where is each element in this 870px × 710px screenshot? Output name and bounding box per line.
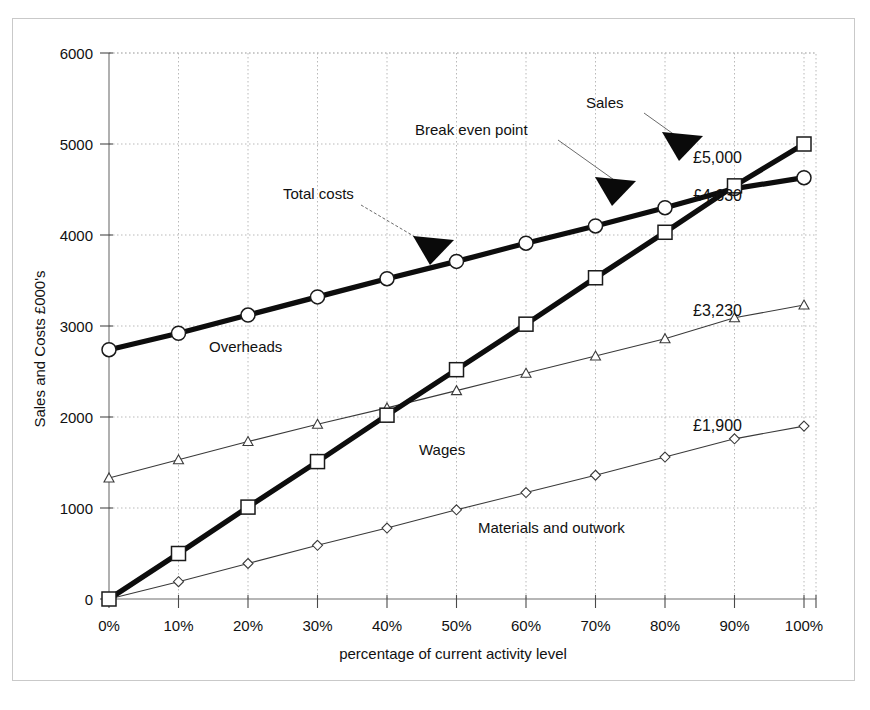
x-axis-tick-label: 60% xyxy=(511,617,541,634)
x-axis-title: percentage of current activity level xyxy=(339,645,567,662)
value-label-wages-end: £3,230 xyxy=(693,302,742,319)
y-axis-title: Sales and Costs £000's xyxy=(31,270,48,427)
data-point-circle xyxy=(172,326,186,340)
x-axis-tick-label: 80% xyxy=(650,617,680,634)
break-even-chart: 6000500040003000200010000 0%10%20%30%40%… xyxy=(13,19,856,682)
y-axis-tick-label: 3000 xyxy=(60,318,93,335)
x-axis-tick-labels: 0%10%20%30%40%50%60%70%80%90%100% xyxy=(98,617,823,634)
y-axis-tick-labels: 6000500040003000200010000 xyxy=(60,45,93,608)
data-point-diamond xyxy=(521,488,531,498)
data-point-circle xyxy=(658,201,672,215)
data-point-diamond xyxy=(313,540,323,550)
x-axis-tick-label: 0% xyxy=(98,617,120,634)
value-label-materials-end: £1,900 xyxy=(693,417,742,434)
x-axis-tick-label: 90% xyxy=(719,617,749,634)
annotation-total-costs-label: Total costs xyxy=(283,185,354,202)
data-point-diamond xyxy=(660,452,670,462)
data-point-circle xyxy=(241,308,255,322)
annotation-sales-label: Sales xyxy=(586,94,624,111)
area-label-materials: Materials and outwork xyxy=(478,519,625,536)
data-point-square xyxy=(450,363,464,377)
data-point-diamond xyxy=(174,577,184,587)
x-axis-tick-label: 40% xyxy=(372,617,402,634)
value-label-total-costs-end: £4,630 xyxy=(693,187,742,204)
annotation-break-even-label: Break even point xyxy=(415,121,528,138)
data-point-circle xyxy=(797,171,811,185)
data-point-circle xyxy=(450,254,464,268)
x-axis-tick-label: 70% xyxy=(580,617,610,634)
data-point-square xyxy=(311,455,325,469)
data-point-square xyxy=(380,408,394,422)
data-point-triangle xyxy=(799,300,809,309)
data-point-circle xyxy=(102,343,116,357)
y-axis-tick-label: 1000 xyxy=(60,500,93,517)
x-axis-tick-label: 30% xyxy=(302,617,332,634)
annotation-total-costs: Total costs xyxy=(283,185,454,265)
data-point-square xyxy=(658,225,672,239)
y-axis-tick-label: 4000 xyxy=(60,227,93,244)
data-point-circle xyxy=(380,272,394,286)
data-series-group xyxy=(102,137,811,606)
data-point-diamond xyxy=(243,559,253,569)
x-axis-tick-label: 100% xyxy=(785,617,823,634)
y-axis-tick-label: 2000 xyxy=(60,409,93,426)
chart-figure: 6000500040003000200010000 0%10%20%30%40%… xyxy=(12,18,855,681)
x-axis-tick-label: 50% xyxy=(441,617,471,634)
data-point-square xyxy=(519,317,533,331)
data-point-diamond xyxy=(382,523,392,533)
data-point-circle xyxy=(519,236,533,250)
data-point-square xyxy=(797,137,811,151)
area-label-overheads: Overheads xyxy=(209,338,282,355)
x-axis-tick-label: 10% xyxy=(163,617,193,634)
data-point-circle xyxy=(311,290,325,304)
data-point-square xyxy=(102,592,116,606)
annotation-sales: Sales xyxy=(586,94,703,161)
break-even-arrowhead xyxy=(595,177,636,206)
y-axis-tick-label: 0 xyxy=(85,591,93,608)
y-axis-tick-label: 5000 xyxy=(60,136,93,153)
total-costs-arrowhead xyxy=(413,236,454,265)
data-point-square xyxy=(589,271,603,285)
data-point-square xyxy=(172,547,186,561)
data-point-circle xyxy=(589,219,603,233)
data-point-square xyxy=(241,500,255,514)
area-label-wages: Wages xyxy=(419,441,465,458)
data-point-diamond xyxy=(591,470,601,480)
y-axis-tick-label: 6000 xyxy=(60,45,93,62)
value-label-sales-end: £5,000 xyxy=(693,149,742,166)
x-axis xyxy=(105,595,816,608)
data-point-diamond xyxy=(452,505,462,515)
x-axis-tick-label: 20% xyxy=(233,617,263,634)
y-axis xyxy=(100,53,113,603)
data-point-diamond xyxy=(730,434,740,444)
data-point-diamond xyxy=(799,421,809,431)
